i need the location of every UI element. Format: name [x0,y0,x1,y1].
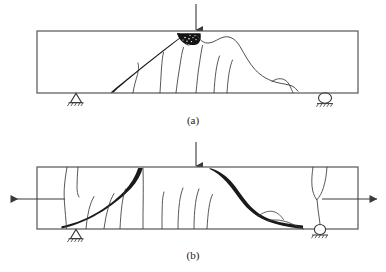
panel-a-pin-support [68,93,84,106]
panel-b: (b) [11,142,377,262]
panel-a: (a) [37,4,358,127]
panel-b-pin-support [68,229,84,242]
beam-failure-diagram: (a) [0,0,386,272]
figure-container: (a) [0,0,386,272]
panel-a-caption: (a) [187,114,200,127]
panel-b-caption: (b) [187,249,200,262]
panel-a-roller-support [317,93,334,107]
